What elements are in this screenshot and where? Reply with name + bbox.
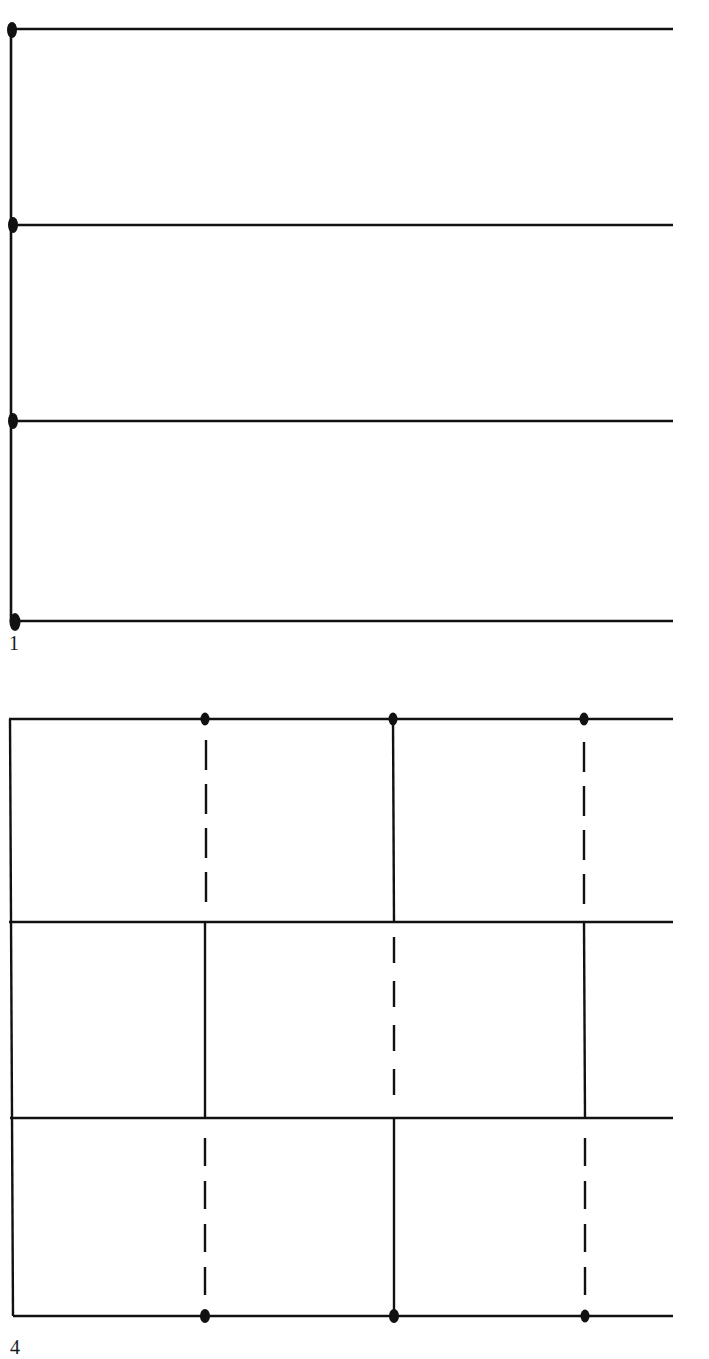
figure-4-bottom-dot-3	[581, 1310, 590, 1323]
figure-4-drawing	[0, 0, 709, 1359]
figure-4	[0, 0, 709, 1359]
figure-4-col-3-row-2-solid	[584, 922, 585, 1118]
figure-4-top-dot-3	[580, 713, 589, 726]
figure-4-bottom-dot-2	[389, 1309, 399, 1323]
figure-4-bottom-dot-1	[200, 1309, 210, 1323]
figure-4-top-dot-1	[201, 713, 210, 726]
figure-4-label: 4	[10, 1337, 20, 1357]
figure-4-top-dot-2	[389, 713, 398, 726]
figure-4-left-line	[10, 719, 13, 1316]
figure-4-col-2-row-1-solid	[393, 719, 394, 922]
